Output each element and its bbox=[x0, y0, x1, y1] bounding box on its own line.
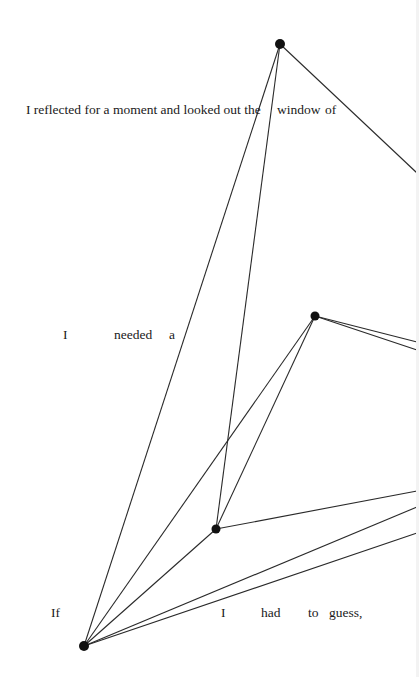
node-dot-C bbox=[212, 525, 221, 534]
line-3-word: had bbox=[261, 606, 281, 620]
edge-line bbox=[315, 316, 417, 350]
edge-line bbox=[84, 533, 417, 646]
edge-line bbox=[84, 316, 315, 646]
edge-line bbox=[315, 316, 417, 342]
edge-line bbox=[216, 316, 315, 529]
line-1-word: window bbox=[277, 103, 321, 117]
line-1-word: of bbox=[325, 103, 336, 117]
line-1-word: I reflected for a moment and looked out … bbox=[26, 103, 261, 117]
poem-page: I reflected for a moment and looked out … bbox=[0, 0, 419, 677]
line-2-word: I bbox=[63, 328, 68, 342]
node-dot-B bbox=[311, 312, 320, 321]
node-dot-D bbox=[79, 641, 89, 651]
edge-line bbox=[216, 491, 417, 529]
line-3-word: If bbox=[51, 606, 60, 620]
edge-line bbox=[84, 529, 216, 646]
line-2-word: needed bbox=[114, 328, 152, 342]
node-dot-A bbox=[275, 39, 285, 49]
line-2-word: a bbox=[169, 328, 175, 342]
line-3-word: I bbox=[221, 606, 226, 620]
line-3-word: guess, bbox=[329, 606, 362, 620]
edge-line bbox=[84, 507, 417, 646]
line-3-word: to bbox=[308, 606, 319, 620]
edge-line bbox=[84, 44, 280, 646]
